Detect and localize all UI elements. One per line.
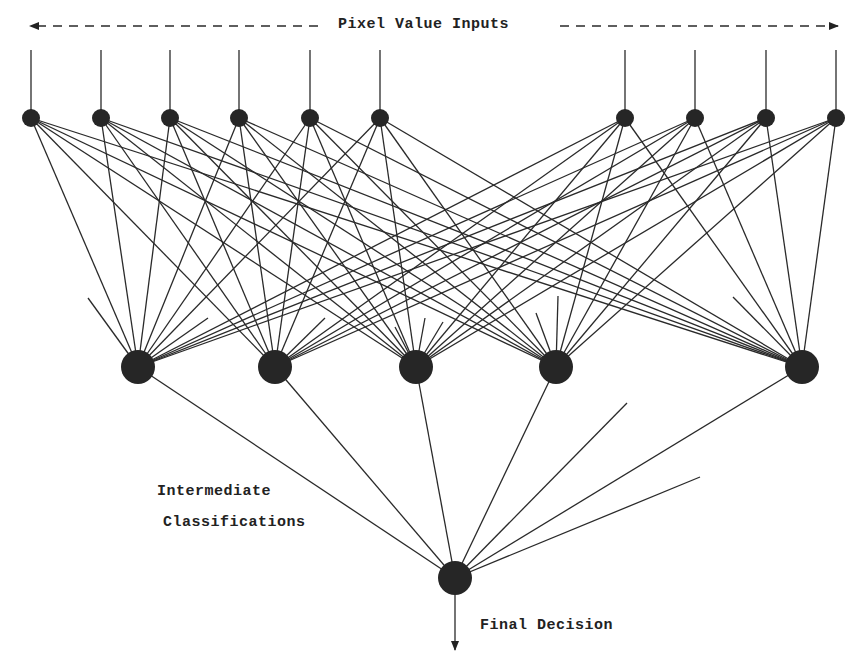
- hidden-node: [121, 350, 155, 384]
- hidden-output-edge: [455, 367, 556, 578]
- input-hidden-edge: [275, 118, 766, 367]
- final-decision-label: Final Decision: [480, 617, 613, 634]
- input-hidden-edge: [695, 118, 802, 367]
- input-hidden-edge: [275, 118, 695, 367]
- hidden-node: [399, 350, 433, 384]
- partial-output-edge: [455, 403, 627, 578]
- input-node: [301, 109, 319, 127]
- classifications-label: Classifications: [163, 514, 306, 531]
- input-hidden-edge: [31, 118, 138, 367]
- input-hidden-edge: [275, 118, 836, 367]
- input-hidden-edge: [766, 118, 802, 367]
- hidden-output-edge: [275, 367, 455, 578]
- input-hidden-edge: [138, 118, 695, 367]
- input-hidden-edge: [802, 118, 836, 367]
- intermediate-label: Intermediate: [157, 483, 271, 500]
- input-node: [92, 109, 110, 127]
- input-hidden-edge: [380, 118, 416, 367]
- input-node: [757, 109, 775, 127]
- input-hidden-edge: [416, 118, 836, 367]
- input-hidden-edge: [310, 118, 416, 367]
- input-node: [616, 109, 634, 127]
- input-node: [827, 109, 845, 127]
- pixel-value-inputs-label: Pixel Value Inputs: [338, 16, 509, 33]
- input-hidden-edge: [275, 118, 310, 367]
- connections: [31, 50, 836, 650]
- input-hidden-edge: [101, 118, 138, 367]
- input-node: [230, 109, 248, 127]
- input-hidden-edge: [138, 118, 170, 367]
- partial-output-edge: [455, 477, 700, 578]
- input-node: [22, 109, 40, 127]
- hidden-output-edge: [138, 367, 455, 578]
- output-node: [438, 561, 472, 595]
- hidden-node: [539, 350, 573, 384]
- input-hidden-edge: [138, 118, 625, 367]
- hidden-node: [785, 350, 819, 384]
- input-hidden-edge: [556, 118, 766, 367]
- input-hidden-edge: [138, 118, 766, 367]
- hidden-node: [258, 350, 292, 384]
- input-node: [371, 109, 389, 127]
- input-node: [161, 109, 179, 127]
- network-diagram: [0, 0, 864, 669]
- input-node: [686, 109, 704, 127]
- hidden-output-edge: [455, 367, 802, 578]
- hidden-output-edge: [416, 367, 455, 578]
